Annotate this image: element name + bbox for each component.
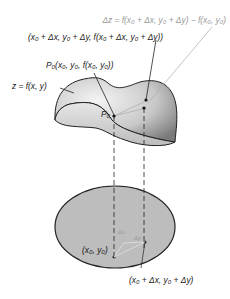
delta-z-label: Δz = f(x₀ + Δx, y₀ + Δy) − f(x₀, y₀) [101, 15, 226, 25]
delta-y-label: Δy [133, 235, 142, 241]
point-p0 [112, 114, 115, 117]
surface-label: z = f(x, y) [11, 81, 47, 91]
point-q-proj [142, 106, 145, 109]
point-q-label: (x₀ + Δx, y₀ + Δy, f(x₀ + Δx, y₀ + Δy)) [28, 32, 163, 42]
base-point-shifted-label: (x₀ + Δx, y₀ + Δy) [129, 275, 194, 285]
point-q [144, 98, 147, 101]
surface [55, 78, 177, 146]
delta-x-label: Δx [117, 229, 126, 235]
p0-short-label: P₀ [101, 109, 111, 119]
diagram-canvas: Δz = f(x₀ + Δx, y₀ + Δy) − f(x₀, y₀) (x₀… [0, 0, 230, 299]
base-point-label: (x₀, y₀) [82, 245, 108, 255]
point-p0-full-label: P₀(x₀, y₀, f(x₀, y₀)) [46, 60, 114, 70]
